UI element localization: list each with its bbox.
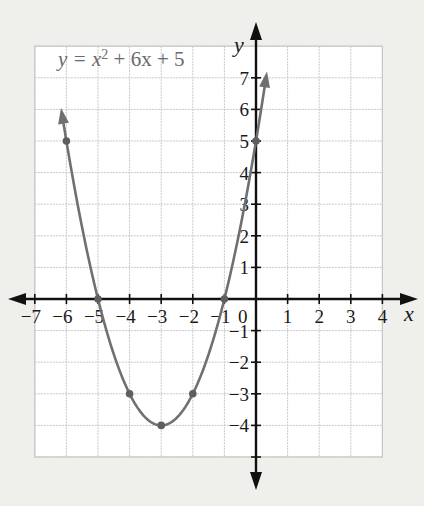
x-tick-label: −6	[52, 306, 72, 327]
y-axis-up-arrow-icon	[250, 22, 262, 40]
y-tick-label: 1	[240, 257, 250, 278]
x-tick-label: −2	[179, 306, 199, 327]
x-axis-left-arrow-icon	[8, 293, 26, 305]
data-point	[157, 422, 165, 430]
y-tick-label: −3	[229, 384, 249, 405]
data-point	[252, 137, 260, 145]
x-tick-label: 1	[283, 306, 293, 327]
equation-suffix: + 6x + 5	[108, 47, 184, 71]
x-axis-label: x	[403, 301, 414, 326]
y-axis-label: y	[232, 32, 244, 57]
y-tick-label: 7	[240, 68, 250, 89]
data-point	[94, 295, 102, 303]
equation-label: y = x2 + 6x + 5	[56, 47, 185, 72]
y-tick-label: −2	[229, 352, 249, 373]
equation-exponent: 2	[101, 47, 108, 62]
y-tick-label: −4	[229, 415, 250, 436]
x-tick-label: 3	[346, 306, 356, 327]
y-tick-label: 5	[240, 131, 250, 152]
origin-label: 0	[238, 306, 248, 327]
data-point	[221, 295, 229, 303]
y-tick-label: 6	[240, 99, 250, 120]
x-tick-label: 2	[314, 306, 324, 327]
data-point	[63, 137, 71, 145]
x-tick-label: −4	[115, 306, 136, 327]
parabola-plot: −7−6−5−4−3−2−11234−4−3−2−112345670 x y y…	[0, 0, 424, 506]
equation-prefix: y = x	[56, 47, 102, 71]
x-tick-label: −7	[21, 306, 41, 327]
data-point	[189, 390, 197, 398]
chart-figure: −7−6−5−4−3−2−11234−4−3−2−112345670 x y y…	[0, 0, 424, 506]
y-axis-down-arrow-icon	[250, 472, 262, 490]
x-tick-label: 4	[378, 306, 388, 327]
data-point	[126, 390, 134, 398]
x-tick-label: −3	[147, 306, 167, 327]
